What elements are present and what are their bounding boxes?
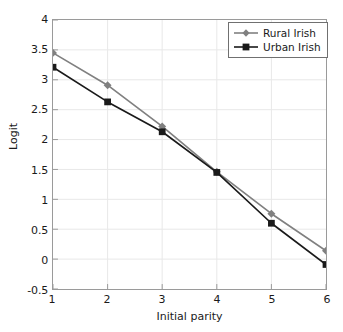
plot-area <box>52 19 327 290</box>
y-tick-label: -0.5 <box>2 284 48 297</box>
x-tick-label: 4 <box>214 293 221 306</box>
x-axis-title: Initial parity <box>52 310 327 323</box>
y-axis-title: Logit <box>7 107 20 167</box>
x-tick-label: 1 <box>49 293 56 306</box>
legend-swatch-rural <box>233 27 259 39</box>
legend-swatch-urban <box>233 41 259 53</box>
y-tick-label: 0.5 <box>2 223 48 236</box>
data-series-layer <box>53 20 326 289</box>
legend: Rural Irish Urban Irish <box>228 22 328 58</box>
y-tick-label: 4 <box>2 13 48 26</box>
x-tick-label: 3 <box>159 293 166 306</box>
chart-figure: 43.532.521.510.50-0.5 Initial parity Log… <box>0 0 343 332</box>
legend-label-urban: Urban Irish <box>263 41 321 53</box>
y-tick-label: 3 <box>2 73 48 86</box>
y-tick-label: 1 <box>2 193 48 206</box>
legend-item-rural: Rural Irish <box>233 26 321 40</box>
x-tick-label: 6 <box>324 293 331 306</box>
legend-label-rural: Rural Irish <box>263 27 316 39</box>
y-tick-label: 3.5 <box>2 43 48 56</box>
y-tick-label: 0 <box>2 253 48 266</box>
x-tick-label: 5 <box>269 293 276 306</box>
legend-item-urban: Urban Irish <box>233 40 321 54</box>
x-tick-label: 2 <box>104 293 111 306</box>
